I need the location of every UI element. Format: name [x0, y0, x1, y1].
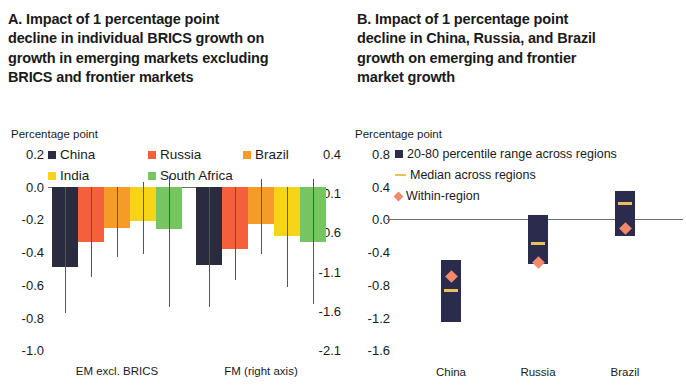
panel-a-ytick-right-3: -1.1	[299, 264, 341, 279]
panel-a-legend-label-brazil: Brazil	[255, 147, 289, 162]
panel-b-legend-label-range: 20-80 percentile range across regions	[407, 147, 617, 161]
panel-b-ytick-5: -1.2	[348, 310, 390, 325]
panel-b-legend-label-median: Median across regions	[410, 168, 536, 182]
panel-b-ytick-2: 0.0	[348, 212, 390, 227]
panel-a-legend-india: India	[48, 168, 89, 183]
panel-b-ytick-3: -0.4	[348, 245, 390, 260]
panel-b-xlabel-china: China	[436, 366, 466, 378]
panel-a-legend-label-south-africa: South Africa	[160, 168, 233, 183]
panel-a-ytick-left-6: -1.0	[4, 343, 44, 358]
figure-two-panel-chart: A. Impact of 1 percentage point decline …	[0, 0, 686, 385]
panel-b-median-brazil	[618, 202, 632, 205]
panel-b-median-russia	[531, 242, 545, 245]
panel-a-xlabel-fm: FM (right axis)	[224, 365, 297, 377]
panel-b-xlabel-russia: Russia	[520, 366, 555, 378]
panel-a-ytick-right-5: -2.1	[299, 343, 341, 358]
panel-a-whisker-em-brazil	[117, 187, 118, 257]
panel-b-ytick-6: -1.6	[348, 343, 390, 358]
legend-diamond-within-region-icon	[394, 191, 404, 201]
panel-a-legend-label-russia: Russia	[160, 147, 201, 162]
panel-a-ytick-left-0: 0.2	[4, 147, 44, 162]
panel-a-ytick-left-3: -0.4	[4, 245, 44, 260]
legend-swatch-south-africa-icon	[148, 172, 156, 180]
panel-a-xlabel-em: EM excl. BRICS	[76, 365, 158, 377]
legend-swatch-brazil-icon	[243, 151, 251, 159]
panel-a-ytick-left-2: -0.2	[4, 212, 44, 227]
panel-b: B. Impact of 1 percentage point decline …	[343, 0, 686, 385]
panel-a-ytick-right-0: 0.4	[299, 147, 341, 162]
panel-a-whisker-em-south-africa	[169, 176, 170, 307]
panel-a: A. Impact of 1 percentage point decline …	[0, 0, 343, 385]
panel-a-ytick-left-4: -0.6	[4, 277, 44, 292]
panel-a-whisker-fm-india	[287, 187, 288, 287]
panel-b-legend-within-region: Within-region	[395, 189, 480, 203]
panel-a-ytick-left-5: -0.8	[4, 310, 44, 325]
legend-swatch-percentile-range-icon	[395, 150, 403, 158]
panel-a-ytick-right-4: -1.6	[299, 303, 341, 318]
panel-a-ytick-left-1: 0.0	[4, 179, 44, 194]
legend-swatch-india-icon	[48, 172, 56, 180]
panel-b-plot-area: 0.8 0.4 0.0 -0.4 -0.8 -1.2 -1.6 20-80 pe…	[343, 0, 686, 385]
panel-a-legend-china: China	[48, 147, 95, 162]
panel-a-legend-russia: Russia	[148, 147, 201, 162]
panel-a-whisker-em-china	[65, 187, 66, 313]
panel-b-ytick-1: 0.4	[348, 179, 390, 194]
panel-a-whisker-em-india	[143, 182, 144, 254]
legend-dash-median-icon	[395, 174, 406, 176]
panel-b-ytick-0: 0.8	[348, 147, 390, 162]
legend-swatch-russia-icon	[148, 151, 156, 159]
panel-a-legend-label-china: China	[60, 147, 95, 162]
panel-a-whisker-em-russia	[91, 187, 92, 277]
panel-b-ytick-4: -0.8	[348, 277, 390, 292]
panel-a-whisker-fm-brazil	[261, 179, 262, 254]
panel-b-legend-median: Median across regions	[395, 168, 536, 182]
legend-swatch-china-icon	[48, 151, 56, 159]
panel-b-legend-label-within-region: Within-region	[406, 189, 480, 203]
panel-a-legend-brazil: Brazil	[243, 147, 289, 162]
panel-a-whisker-fm-south-africa	[313, 179, 314, 304]
panel-b-xlabel-brazil: Brazil	[611, 366, 640, 378]
panel-a-legend-label-india: India	[60, 168, 89, 183]
panel-b-median-china	[444, 289, 458, 292]
panel-a-legend-south-africa: South Africa	[148, 168, 233, 183]
panel-a-plot-area: 0.2 0.0 -0.2 -0.4 -0.6 -0.8 -1.0 0.4 -0.…	[0, 0, 343, 385]
panel-a-whisker-fm-china	[209, 187, 210, 307]
panel-a-whisker-fm-russia	[235, 187, 236, 280]
panel-b-legend-range: 20-80 percentile range across regions	[395, 147, 617, 161]
